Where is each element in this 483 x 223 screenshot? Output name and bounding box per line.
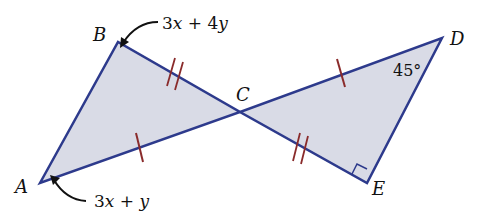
geometry-diagram: A B C D E 3x + 4y 3x + y 45° [0, 0, 483, 223]
label-c: C [236, 84, 250, 105]
angle-b-expression: 3x + 4y [162, 13, 228, 33]
label-e: E [371, 178, 385, 199]
triangle-dec [240, 38, 442, 183]
arrow-a [54, 180, 86, 201]
label-d: D [449, 28, 465, 49]
angle-a-expression: 3x + y [94, 191, 149, 211]
label-a: A [13, 176, 28, 197]
arrow-b [123, 22, 158, 43]
angle-d-label: 45° [393, 61, 421, 80]
triangle-abc [40, 42, 240, 183]
label-b: B [92, 24, 106, 45]
